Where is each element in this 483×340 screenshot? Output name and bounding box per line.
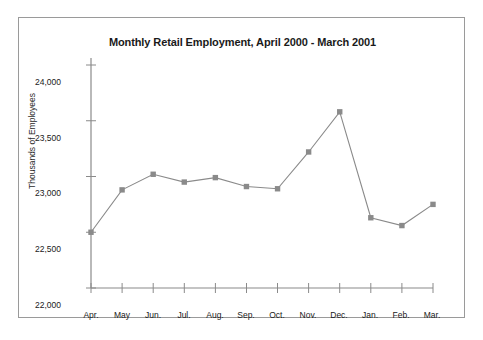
chart-figure: Monthly Retail Employment, April 2000 - … (18, 17, 465, 318)
data-point-jul (182, 179, 187, 184)
data-point-may (119, 187, 124, 192)
data-point-aug (213, 175, 218, 180)
data-series-retail-employment (88, 109, 435, 235)
axes (86, 58, 433, 293)
series-markers (88, 109, 435, 235)
plot-area (19, 18, 466, 319)
data-point-dec (337, 109, 342, 114)
series-line (91, 112, 433, 232)
data-point-feb (399, 223, 404, 228)
data-point-jun (150, 172, 155, 177)
data-point-apr (88, 230, 93, 235)
data-point-oct (275, 186, 280, 191)
data-point-mar (430, 202, 435, 207)
data-point-nov (306, 149, 311, 154)
data-point-sep (244, 184, 249, 189)
data-point-jan (368, 215, 373, 220)
